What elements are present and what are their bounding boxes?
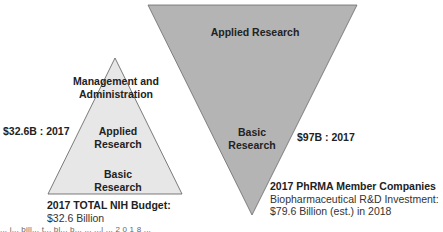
pharma-layer-applied: Applied Research: [200, 26, 310, 39]
pharma-caption-title: 2017 PhRMA Member Companies: [270, 180, 439, 193]
nih-layer-basic: Basic Research: [78, 168, 158, 193]
pharma-amount-label: $97B : 2017: [297, 131, 355, 143]
pharma-caption-amount: $79.6 Billion (est.) in 2018: [270, 205, 439, 218]
nih-layer-applied-line2: Research: [94, 138, 141, 150]
footnote-cutoff: ... i... bill... t... bl... b... ... ...…: [0, 225, 151, 232]
nih-caption-amount: $32.6 Billion: [47, 212, 171, 225]
pharma-layer-basic: Basic Research: [222, 126, 282, 151]
pharma-layer-basic-line1: Basic: [238, 126, 266, 138]
nih-layer-applied-line1: Applied: [99, 125, 138, 137]
nih-layer-basic-line1: Basic: [104, 168, 132, 180]
nih-amount-label: $32.6B : 2017: [3, 125, 70, 137]
pharma-caption-investment: Biopharmaceutical R&D Investment:: [270, 193, 439, 206]
nih-caption: 2017 TOTAL NIH Budget: $32.6 Billion: [47, 199, 171, 224]
nih-layer-basic-line2: Research: [94, 181, 141, 193]
nih-layer-management-line2: Administration: [79, 88, 153, 100]
pharma-layer-applied-line1: Applied Research: [211, 26, 300, 38]
nih-layer-management: Management and Administration: [68, 75, 164, 100]
nih-layer-management-line1: Management and: [73, 75, 159, 87]
nih-caption-title: 2017 TOTAL NIH Budget:: [47, 199, 171, 212]
nih-layer-applied: Applied Research: [78, 125, 158, 150]
pharma-layer-basic-line2: Research: [228, 139, 275, 151]
pharma-caption: 2017 PhRMA Member Companies Biopharmaceu…: [270, 180, 439, 218]
